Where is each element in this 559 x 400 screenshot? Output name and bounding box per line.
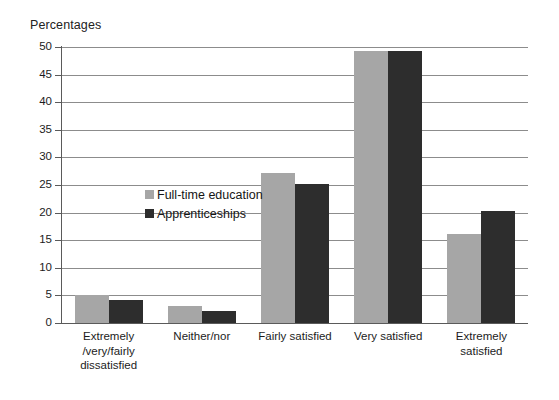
legend-item-full-time-education: Full-time education: [145, 185, 263, 204]
plot-area: Full-time education Apprenticeships: [62, 47, 528, 323]
bar-chart-figure: Percentages 05101520253035404550 Full-ti…: [0, 0, 559, 400]
y-tick-label-35: 35: [26, 123, 52, 135]
bar-4-series-1: [481, 211, 515, 323]
bar-4-series-0: [447, 234, 481, 323]
bar-1-series-1: [202, 311, 236, 323]
y-tick-label-25: 25: [26, 178, 52, 190]
bar-group-2: [261, 47, 329, 323]
y-tick-label-15: 15: [26, 233, 52, 245]
bar-groups: [62, 47, 528, 323]
category-label-4: Extremelysatisfied: [435, 329, 528, 358]
category-label-2: Fairly satisfied: [248, 329, 341, 344]
legend-swatch-apprenticeships: [145, 209, 154, 218]
category-label-1: Neither/nor: [155, 329, 248, 344]
y-tick-label-0: 0: [26, 316, 52, 328]
bar-1-series-0: [168, 306, 202, 323]
bar-3-series-1: [388, 51, 422, 323]
y-tick-10: [55, 268, 62, 269]
bar-3-series-0: [354, 51, 388, 323]
bar-group-3: [354, 47, 422, 323]
y-tick-50: [55, 47, 62, 48]
legend-label-full-time-education: Full-time education: [157, 188, 263, 202]
y-tick-35: [55, 130, 62, 131]
chart-legend: Full-time education Apprenticeships: [145, 185, 263, 223]
y-tick-25: [55, 185, 62, 186]
chart-axis-title: Percentages: [30, 18, 101, 32]
legend-item-apprenticeships: Apprenticeships: [145, 204, 263, 223]
y-tick-label-20: 20: [26, 206, 52, 218]
bar-0-series-1: [109, 300, 143, 323]
y-tick-label-40: 40: [26, 95, 52, 107]
y-tick-45: [55, 75, 62, 76]
y-tick-40: [55, 102, 62, 103]
y-tick-5: [55, 295, 62, 296]
y-tick-0: [55, 323, 62, 324]
x-axis-category-labels: Extremely/very/fairlydissatisfiedNeither…: [62, 329, 528, 395]
legend-swatch-full-time-education: [145, 190, 154, 199]
y-tick-15: [55, 240, 62, 241]
bar-2-series-0: [261, 173, 295, 323]
y-tick-20: [55, 213, 62, 214]
category-label-0: Extremely/very/fairlydissatisfied: [62, 329, 155, 373]
y-tick-label-5: 5: [26, 288, 52, 300]
y-tick-label-10: 10: [26, 261, 52, 273]
bar-2-series-1: [295, 184, 329, 323]
bar-group-0: [75, 47, 143, 323]
y-tick-label-50: 50: [26, 40, 52, 52]
y-axis-tick-labels: 05101520253035404550: [22, 47, 52, 323]
gridline-0: [62, 323, 528, 324]
y-tick-label-45: 45: [26, 68, 52, 80]
bar-0-series-0: [75, 295, 109, 323]
bar-group-4: [447, 47, 515, 323]
legend-label-apprenticeships: Apprenticeships: [157, 207, 246, 221]
y-tick-30: [55, 157, 62, 158]
category-label-3: Very satisfied: [342, 329, 435, 344]
y-tick-label-30: 30: [26, 150, 52, 162]
